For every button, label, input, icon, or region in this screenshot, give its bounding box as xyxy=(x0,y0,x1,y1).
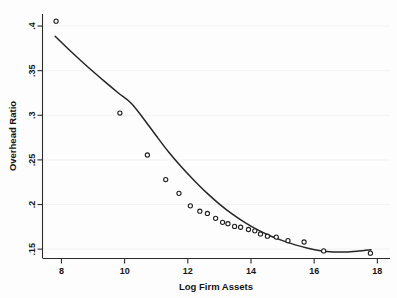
y-tick-label: .35 xyxy=(27,64,37,77)
y-tick-label: .2 xyxy=(27,201,37,209)
data-point-marker xyxy=(145,153,149,157)
x-tick-label: 18 xyxy=(372,266,382,276)
x-axis-title: Log Firm Assets xyxy=(179,281,253,292)
data-point-marker xyxy=(198,209,202,213)
data-point-marker xyxy=(118,111,122,115)
data-point-marker xyxy=(177,191,181,195)
x-tick-label: 8 xyxy=(59,266,64,276)
data-point-marker xyxy=(274,235,278,239)
y-tick-label: .15 xyxy=(27,243,37,256)
data-point-marker xyxy=(253,229,257,233)
data-point-marker xyxy=(226,222,230,226)
data-point-marker xyxy=(188,204,192,208)
data-point-marker xyxy=(258,232,262,236)
chart-figure: .15.2.25.3.35.4 81012141618 Log Firm Ass… xyxy=(0,0,397,298)
x-tick-label: 14 xyxy=(246,266,256,276)
data-point-marker xyxy=(220,220,224,224)
x-tick-label: 16 xyxy=(309,266,319,276)
data-point-marker xyxy=(232,224,236,228)
plot-background xyxy=(0,0,397,298)
scatter-plot-canvas: .15.2.25.3.35.4 81012141618 Log Firm Ass… xyxy=(0,0,397,298)
x-tick-label: 12 xyxy=(183,266,193,276)
data-point-marker xyxy=(164,177,168,181)
y-tick-label: .4 xyxy=(27,22,37,30)
data-point-marker xyxy=(238,225,242,229)
data-point-marker xyxy=(214,216,218,220)
data-point-marker xyxy=(265,234,269,238)
data-point-marker xyxy=(286,239,290,243)
data-point-marker xyxy=(246,227,250,231)
data-point-marker xyxy=(54,19,58,23)
data-point-marker xyxy=(368,251,372,255)
y-tick-label: .3 xyxy=(27,112,37,120)
x-tick-label: 10 xyxy=(120,266,130,276)
data-point-marker xyxy=(205,211,209,215)
data-point-marker xyxy=(322,249,326,253)
data-point-marker xyxy=(302,240,306,244)
y-tick-label: .25 xyxy=(27,154,37,167)
y-axis-title: Overhead Ratio xyxy=(7,101,18,171)
